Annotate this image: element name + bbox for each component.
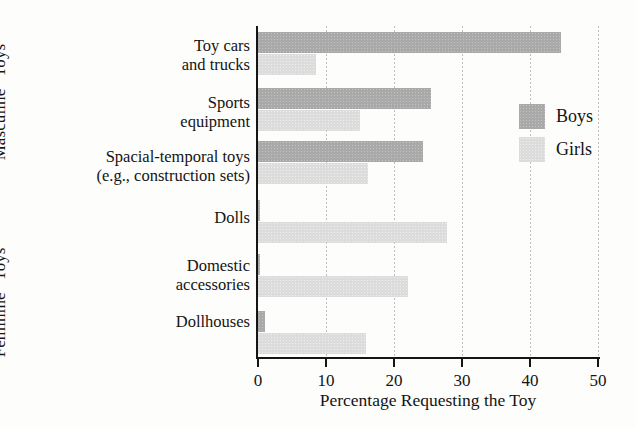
legend: Boys Girls — [519, 100, 629, 166]
x-tick-mark — [393, 358, 395, 367]
category-label-line: Domestic — [30, 256, 250, 275]
category-label-column: Toy cars and trucks Sports equipment Spa… — [30, 0, 258, 427]
category-label-line: Sports — [30, 93, 250, 112]
category-label-spacial-temporal-toys: Spacial-temporal toys (e.g., constructio… — [30, 147, 258, 185]
category-label-dolls: Dolls — [30, 208, 258, 227]
gridline — [530, 26, 531, 358]
legend-label-boys: Boys — [556, 106, 593, 127]
category-label-sports-equipment: Sports equipment — [30, 93, 258, 131]
category-label-line: and trucks — [30, 55, 250, 74]
bar-boys-toy-cars-and-trucks — [258, 32, 561, 53]
bar-boys-dolls — [258, 200, 260, 221]
legend-item-boys: Boys — [519, 100, 629, 133]
legend-swatch-girls — [519, 137, 545, 162]
bar-boys-spacial-temporal-toys-e-g-construction-sets — [258, 141, 423, 162]
bar-girls-domestic-accessories — [258, 276, 408, 297]
bar-girls-sports-equipment — [258, 110, 360, 131]
category-label-line: Toy cars — [30, 36, 250, 55]
bar-girls-dolls — [258, 222, 447, 243]
category-label-line: Spacial-temporal toys — [30, 147, 250, 166]
bar-boys-domestic-accessories — [258, 254, 260, 275]
bar-girls-toy-cars-and-trucks — [258, 54, 316, 75]
bar-girls-dollhouses — [258, 333, 366, 354]
bar-boys-dollhouses — [258, 311, 265, 332]
legend-swatch-boys — [519, 104, 545, 129]
category-label-domestic-accessories: Domestic accessories — [30, 256, 258, 294]
plot-area: 01020304050 — [258, 26, 598, 358]
bar-girls-spacial-temporal-toys-e-g-construction-sets — [258, 163, 368, 184]
x-tick-label: 10 — [318, 371, 335, 391]
category-label-line: Dolls — [30, 208, 250, 227]
category-label-line: Dollhouses — [30, 312, 250, 331]
y-axis-line — [256, 26, 258, 358]
x-tick-label: 0 — [254, 371, 263, 391]
x-axis-line — [256, 357, 600, 359]
x-tick-mark — [529, 358, 531, 367]
group-label-feminine: “Feminine” Toys — [0, 247, 10, 365]
x-tick-label: 40 — [522, 371, 539, 391]
gridline — [462, 26, 463, 358]
x-tick-label: 20 — [386, 371, 403, 391]
x-tick-mark — [597, 358, 599, 367]
bar-boys-sports-equipment — [258, 88, 431, 109]
category-label-dollhouses: Dollhouses — [30, 312, 258, 331]
category-label-line: equipment — [30, 112, 250, 131]
legend-item-girls: Girls — [519, 133, 629, 166]
x-tick-label: 30 — [454, 371, 471, 391]
x-tick-mark — [257, 358, 259, 367]
group-label-masculine: “Masculine” Toys — [0, 44, 10, 168]
x-tick-mark — [461, 358, 463, 367]
gridline — [394, 26, 395, 358]
chart-figure: “Masculine” Toys “Feminine” Toys Toy car… — [0, 0, 636, 427]
x-axis-title: Percentage Requesting the Toy — [258, 390, 598, 411]
gridline — [326, 26, 327, 358]
legend-label-girls: Girls — [556, 139, 592, 160]
category-label-line: (e.g., construction sets) — [30, 166, 250, 185]
x-tick-label: 50 — [590, 371, 607, 391]
category-label-toy-cars: Toy cars and trucks — [30, 36, 258, 74]
gridline — [598, 26, 599, 358]
x-tick-mark — [325, 358, 327, 367]
category-label-line: accessories — [30, 275, 250, 294]
